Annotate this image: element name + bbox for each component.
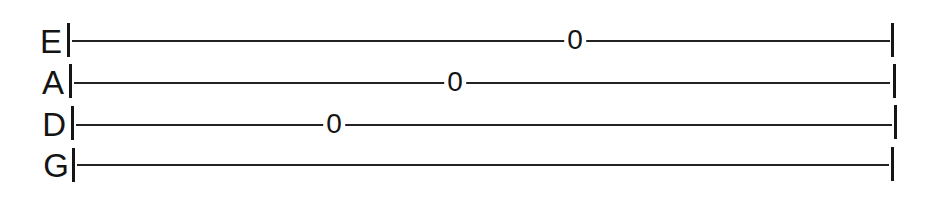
string-label-d: D <box>26 108 66 141</box>
start-bar-line <box>67 23 70 57</box>
end-bar-line <box>894 105 897 139</box>
end-bar-line <box>891 147 894 181</box>
string-line-a <box>74 82 890 84</box>
string-row-d: D 0 <box>0 103 932 143</box>
fret-number: 0 <box>564 26 586 54</box>
string-line-d <box>76 124 892 126</box>
string-line-g <box>77 164 889 166</box>
fret-number: 0 <box>444 68 466 96</box>
tablature-staff: E 0 A 0 D 0 G <box>0 0 932 200</box>
string-row-e: E 0 <box>0 21 932 61</box>
string-row-g: G <box>0 144 932 184</box>
string-line-e <box>72 40 890 42</box>
start-bar-line <box>72 148 75 182</box>
fret-number: 0 <box>323 110 345 138</box>
string-row-a: A 0 <box>0 62 932 102</box>
end-bar-line <box>893 64 896 98</box>
start-bar-line <box>69 64 72 98</box>
string-label-a: A <box>24 66 64 99</box>
start-bar-line <box>71 106 74 140</box>
string-label-e: E <box>22 25 62 58</box>
string-label-g: G <box>29 149 69 182</box>
end-bar-line <box>891 23 894 57</box>
